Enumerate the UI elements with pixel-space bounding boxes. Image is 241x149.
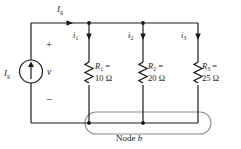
resistor-1-zigzag (85, 62, 93, 83)
source-current-label: Ig (57, 5, 63, 14)
current-i3-arrow-head (195, 34, 201, 41)
source-label: Ig (4, 69, 10, 78)
polarity-minus-sign: − (46, 94, 52, 105)
node-b-label-text: Node (116, 133, 136, 143)
node-b-label: Node b (116, 134, 142, 143)
resistor-2-zigzag (139, 62, 147, 83)
source-label-subscript: g (7, 73, 10, 79)
junction-dot-bottom-1 (87, 121, 91, 125)
current-i2-label-subscript: 2 (130, 35, 133, 41)
resistor-2-equals: = (158, 61, 163, 71)
current-i3-label: i3 (181, 31, 186, 40)
current-i2-arrow-head (140, 34, 146, 41)
resistor-3-zigzag (194, 62, 202, 83)
current-i1-label-subscript: 1 (75, 35, 78, 41)
junction-dot-top-1 (87, 21, 91, 25)
resistor-3-label: R3 = (202, 62, 217, 71)
resistor-2-label: R2 = (148, 62, 163, 71)
resistor-2-label-subscript: 2 (153, 66, 156, 72)
junction-dot-top-2 (141, 21, 145, 25)
polarity-plus-sign: + (46, 39, 52, 50)
source-current-label-subscript: g (60, 9, 63, 15)
resistor-1-label: R1 = (95, 62, 110, 71)
resistor-2-value: 20 Ω (148, 74, 165, 83)
resistor-1-label-subscript: 1 (100, 66, 103, 72)
junction-dot-bottom-2 (141, 121, 145, 125)
resistor-3-label-subscript: 3 (207, 66, 210, 72)
circuit-diagram: Ig Ig + v − i1 i2 i3 R1 = 10 Ω R2 = 20 Ω… (0, 0, 241, 149)
source-current-arrow-head (67, 20, 74, 26)
resistor-3-equals: = (212, 61, 217, 71)
current-i3-label-subscript: 3 (183, 35, 186, 41)
resistor-1-equals: = (105, 61, 110, 71)
resistor-1-value: 10 Ω (95, 74, 112, 83)
voltage-label: v (47, 68, 51, 78)
current-i1-label: i1 (73, 31, 78, 40)
current-i2-label: i2 (128, 31, 133, 40)
node-b-label-name: b (138, 133, 143, 143)
current-i1-arrow-head (86, 34, 92, 41)
resistor-3-value: 25 Ω (202, 74, 219, 83)
